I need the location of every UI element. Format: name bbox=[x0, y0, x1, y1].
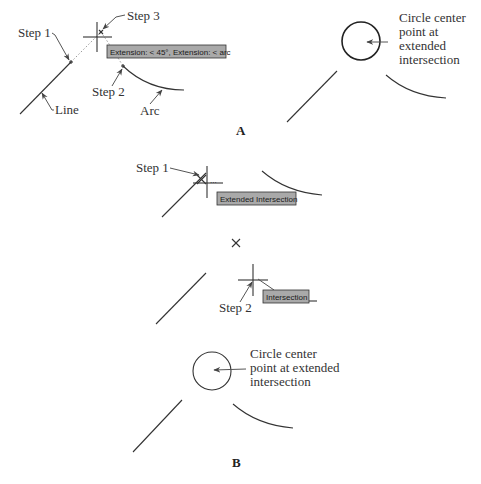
panel-b: ... Extended Intersection Step 1 Interse… bbox=[133, 160, 340, 470]
line-b-result bbox=[133, 400, 182, 452]
circle-b-result bbox=[193, 352, 231, 390]
svg-text:Extended Intersection: Extended Intersection bbox=[220, 195, 297, 204]
callout-step2-a: Step 2 bbox=[92, 84, 125, 99]
tooltip-pointer-b bbox=[258, 279, 274, 290]
leader-line-a bbox=[42, 93, 54, 110]
diagram-stage: ...erpoint of two lines, or intersect at… bbox=[0, 0, 481, 484]
leader-step2-b bbox=[240, 282, 252, 302]
callout-step2-b: Step 2 bbox=[219, 300, 252, 315]
line-b-step1 bbox=[162, 173, 206, 217]
tooltip-extension: Extension: < 45°, Extension: < arc bbox=[107, 45, 231, 58]
ellipsis-marker: ... bbox=[210, 176, 217, 185]
leader-step1-a bbox=[52, 33, 69, 60]
result-note-a-line2: point at bbox=[399, 24, 439, 39]
arc-b-result bbox=[233, 404, 293, 428]
leader-center-b bbox=[214, 369, 246, 370]
arc-a bbox=[123, 66, 184, 90]
x-mark-icon bbox=[232, 239, 240, 247]
svg-text:Intersection: Intersection bbox=[266, 293, 307, 302]
line-a-result bbox=[287, 71, 337, 122]
result-note-b-line2: point at extended bbox=[250, 360, 340, 375]
arc-b-step1 bbox=[262, 171, 322, 195]
line-b-step2 bbox=[156, 273, 206, 324]
circle-a-result bbox=[342, 22, 380, 60]
tooltip-intersection: Intersection bbox=[263, 290, 309, 303]
leader-step3-a bbox=[103, 15, 125, 29]
result-note-a-line4: intersection bbox=[399, 52, 460, 67]
result-note-a-line1: Circle center bbox=[399, 10, 466, 25]
tooltip-extended-intersection: Extended Intersection bbox=[217, 192, 297, 205]
callout-line-a: Line bbox=[55, 102, 79, 117]
callout-step1-b: Step 1 bbox=[136, 160, 169, 175]
panel-a: Extension: < 45°, Extension: < arc Step … bbox=[18, 8, 466, 138]
panel-label-b: B bbox=[232, 455, 241, 470]
result-note-b-line1: Circle center bbox=[250, 346, 317, 361]
result-note-a-line3: extended bbox=[399, 38, 446, 53]
callout-step3-a: Step 3 bbox=[127, 8, 160, 23]
arc-a-result bbox=[386, 75, 446, 98]
result-note-b-line3: intersection bbox=[250, 374, 311, 389]
svg-text:Extension: < 45°, Extension:: Extension: < 45°, Extension: < arc bbox=[110, 48, 231, 57]
callout-arc-a: Arc bbox=[140, 103, 160, 118]
leader-step1-b bbox=[170, 168, 199, 175]
intersection-marker-icon bbox=[99, 30, 103, 34]
panel-label-a: A bbox=[236, 123, 246, 138]
leader-arc-a bbox=[150, 90, 162, 104]
callout-step1-a: Step 1 bbox=[18, 25, 51, 40]
